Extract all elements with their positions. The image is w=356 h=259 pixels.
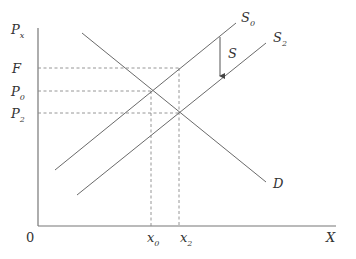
guide-lines <box>38 68 179 226</box>
supply-s0-label: S0 <box>241 10 255 28</box>
axes <box>38 28 336 226</box>
supply-s2-label: S2 <box>273 30 287 48</box>
price-label-p0: P0 <box>10 84 25 102</box>
shift-label-s: S <box>228 46 237 61</box>
price-label-p2: P2 <box>10 106 25 124</box>
origin-label: 0 <box>26 230 34 245</box>
y-axis-label: Px <box>10 22 25 40</box>
quantity-label-x2: x2 <box>180 230 192 248</box>
x-axis-label: X <box>325 230 336 245</box>
supply-curve-s0 <box>55 23 236 170</box>
supply-curve-s2 <box>77 43 266 195</box>
demand-curve <box>82 33 266 182</box>
quantity-label-x0: x0 <box>147 230 159 248</box>
supply-demand-diagram: Px F P0 P2 0 X x0 x2 S0 S2 S D <box>0 0 356 259</box>
price-label-f: F <box>11 61 22 76</box>
demand-label: D <box>272 176 284 191</box>
